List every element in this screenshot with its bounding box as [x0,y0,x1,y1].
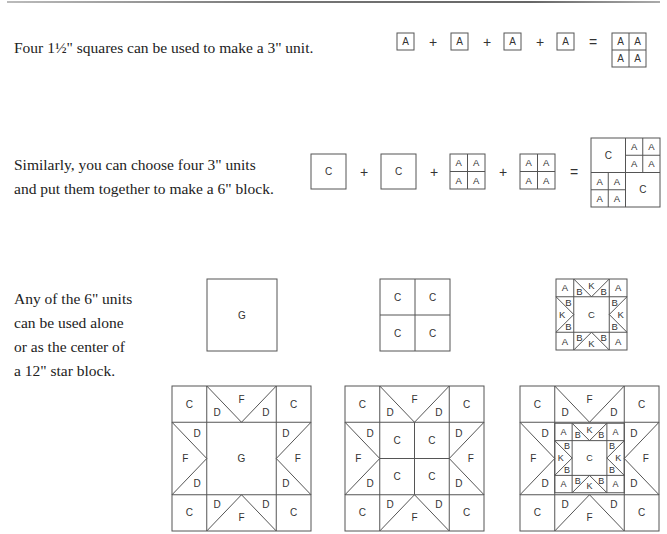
patch-label-C: C [359,507,366,518]
patch-label-F: F [586,512,592,523]
plus-sign: + [430,164,438,180]
patch-label-A: A [648,141,655,152]
seam [415,495,450,531]
patch-label-B: B [576,332,582,343]
patch-label-D: D [193,428,200,439]
patch-label-D: D [387,499,394,510]
patch-label-A: A [596,176,603,187]
patch-label-K: K [618,309,625,320]
patch-label-A: A [614,193,621,204]
patch-label-F: F [530,453,536,464]
patch-label-F: F [238,394,244,405]
patch-label-B: B [609,465,615,475]
patch-label-A: A [526,175,533,186]
patch-label-C: C [394,471,401,482]
patch-label-A: A [402,36,409,47]
patch-label-C: C [605,150,612,161]
patch-label-K: K [558,453,564,463]
patch-label-A: A [617,53,624,64]
patch-label-F: F [468,453,474,464]
patch-label-D: D [610,499,617,510]
patch-label-D: D [455,428,462,439]
plus-sign: + [360,164,368,180]
patch-label-C: C [534,507,541,518]
patch-label-A: A [473,157,480,168]
seam [172,459,207,495]
patch-label-D: D [630,428,637,439]
patch-label-G: G [238,310,246,321]
patch-label-F: F [411,394,417,405]
patch-label-D: D [610,407,617,418]
patch-label-A: A [634,36,641,47]
patch-label-F: F [295,453,301,464]
patch-label-B: B [565,321,571,332]
patch-label-A: A [456,36,463,47]
patch-label-B: B [575,430,581,440]
patch-label-F: F [355,453,361,464]
seam [172,422,207,458]
patch-label-F: F [182,453,188,464]
patch-label-A: A [596,193,603,204]
patch-label-B: B [611,297,617,308]
patch-label-D: D [630,478,637,489]
patch-label-A: A [613,479,619,489]
patch-label-B: B [564,465,570,475]
patch-label-B: B [598,430,604,440]
patch-label-C: C [463,507,470,518]
patch-label-D: D [366,478,373,489]
patch-label-A: A [614,176,621,187]
patch-label-D: D [262,407,269,418]
patch-label-C: C [428,435,435,446]
patch-label-C: C [428,471,435,482]
patch-label-A: A [648,158,655,169]
seam [555,495,590,531]
patch-label-C: C [639,184,646,195]
seam [207,386,242,422]
equals-sign: = [570,164,578,180]
seam [207,495,242,531]
patch-label-B: B [611,321,617,332]
patch-label-C: C [359,399,366,410]
patch-label-D: D [193,478,200,489]
patch-label-D: D [435,499,442,510]
patch-label-D: D [214,499,221,510]
seam [590,386,625,422]
seam [520,422,555,458]
patch-label-B: B [565,297,571,308]
patch-label-A: A [543,157,550,168]
patch-label-C: C [588,309,595,320]
plus-sign: + [499,164,507,180]
patch-label-K: K [615,453,621,463]
patch-label-B: B [575,476,581,486]
patch-label-A: A [617,36,624,47]
patch-label-A: A [562,336,569,347]
patch-label-B: B [609,441,615,451]
patch-label-C: C [638,399,645,410]
patch-label-D: D [541,428,548,439]
patch-label-A: A [562,282,569,293]
patch-label-C: C [186,399,193,410]
seam [345,422,380,458]
patch-label-K: K [588,280,595,291]
patch-label-A: A [613,427,619,437]
patch-label-D: D [541,478,548,489]
patch-label-B: B [564,441,570,451]
equals-sign: = [589,34,597,50]
patch-label-A: A [456,175,463,186]
plus-sign: + [429,34,437,50]
patch-label-D: D [262,499,269,510]
patch-label-A: A [509,36,516,47]
patch-label-D: D [562,407,569,418]
seam [345,459,380,495]
patch-label-A: A [473,175,480,186]
patch-label-D: D [435,407,442,418]
patch-label-C: C [534,399,541,410]
seam [380,495,415,531]
patch-label-B: B [600,332,606,343]
patch-label-A: A [526,157,533,168]
seam [555,386,590,422]
patch-label-C: C [394,435,401,446]
patch-label-A: A [634,53,641,64]
patch-label-D: D [282,478,289,489]
patch-label-C: C [429,292,436,303]
